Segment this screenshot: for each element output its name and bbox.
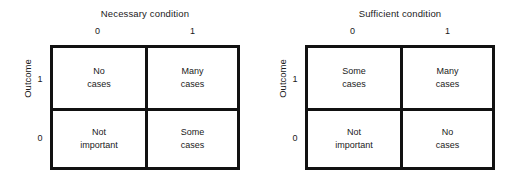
cell-text-line2: cases xyxy=(87,78,111,91)
cell-necessary-outcome0-cond0: Not important xyxy=(53,108,145,168)
row-axis-caption-sufficient: Outcome xyxy=(277,44,288,114)
cell-text-line1: Many xyxy=(181,65,203,78)
cell-sufficient-outcome1-cond0: Some cases xyxy=(308,48,400,108)
cell-text-line2: important xyxy=(335,139,373,152)
row-label-necessary-0: 0 xyxy=(34,133,46,143)
cell-text-line1: No xyxy=(93,65,105,78)
panel-necessary-condition: Necessary condition 0 1 Outcome 1 0 No c… xyxy=(0,0,260,186)
column-label-necessary-1: 1 xyxy=(145,26,240,36)
two-panel-truth-table-figure: Necessary condition 0 1 Outcome 1 0 No c… xyxy=(0,0,520,186)
grid-sufficient: Some cases Many cases Not important No c… xyxy=(305,45,495,170)
cell-text-line2: cases xyxy=(181,139,205,152)
cell-text-line1: No xyxy=(442,126,454,139)
cell-sufficient-outcome1-cond1: Many cases xyxy=(400,48,492,108)
column-label-sufficient-1: 1 xyxy=(400,26,495,36)
cell-text-line2: cases xyxy=(436,139,460,152)
cell-text-line1: Not xyxy=(347,126,361,139)
grid-necessary: No cases Many cases Not important Some c… xyxy=(50,45,240,170)
column-label-necessary-0: 0 xyxy=(50,26,145,36)
cell-necessary-outcome1-cond0: No cases xyxy=(53,48,145,108)
cell-text-line2: cases xyxy=(436,78,460,91)
cell-sufficient-outcome0-cond0: Not important xyxy=(308,108,400,168)
cell-text-line1: Some xyxy=(181,126,205,139)
cell-text-line1: Not xyxy=(92,126,106,139)
row-label-sufficient-0: 0 xyxy=(289,133,301,143)
row-label-sufficient-1: 1 xyxy=(289,74,301,84)
panel-sufficient-condition: Sufficient condition 0 1 Outcome 1 0 Som… xyxy=(255,0,515,186)
panel-title-necessary: Necessary condition xyxy=(50,8,240,19)
cell-sufficient-outcome0-cond1: No cases xyxy=(400,108,492,168)
cell-text-line1: Some xyxy=(342,65,366,78)
row-label-necessary-1: 1 xyxy=(34,74,46,84)
cell-text-line2: cases xyxy=(181,78,205,91)
cell-necessary-outcome0-cond1: Some cases xyxy=(145,108,237,168)
row-axis-caption-necessary: Outcome xyxy=(22,44,33,114)
column-label-sufficient-0: 0 xyxy=(305,26,400,36)
panel-title-sufficient: Sufficient condition xyxy=(305,8,495,19)
cell-text-line2: cases xyxy=(342,78,366,91)
cell-text-line2: important xyxy=(80,139,118,152)
cell-text-line1: Many xyxy=(436,65,458,78)
cell-necessary-outcome1-cond1: Many cases xyxy=(145,48,237,108)
